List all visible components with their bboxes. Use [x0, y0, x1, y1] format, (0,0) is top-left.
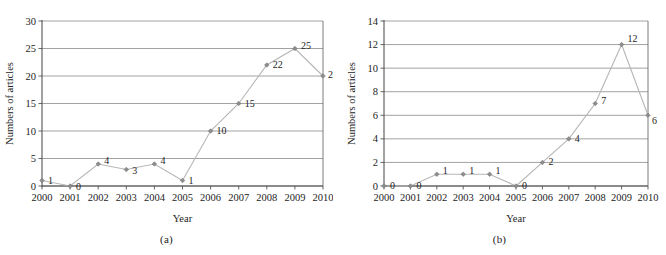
data-point-label: 12	[628, 33, 638, 44]
chart-panel-a: 0510152025302000200120022003200420052006…	[0, 0, 333, 255]
x-tick-label-2004: 2004	[479, 192, 501, 203]
data-point-label: 15	[245, 98, 255, 109]
y-tick-label-20: 20	[26, 71, 37, 82]
x-tick-label-2007: 2007	[228, 192, 249, 203]
y-tick-label-10: 10	[26, 126, 37, 137]
y-tick-label-0: 0	[373, 181, 378, 192]
chart-panel-b: 0246810121420002001200220032004200520062…	[333, 0, 666, 255]
x-tick-label-2006: 2006	[200, 192, 221, 203]
y-axis-title: Numbers of articles	[346, 62, 357, 145]
x-tick-label-2000: 2000	[32, 192, 53, 203]
x-axis-title: Year	[173, 213, 193, 224]
data-point-label: 4	[104, 155, 109, 166]
data-point-marker	[40, 178, 45, 183]
y-tick-label-8: 8	[373, 86, 378, 97]
data-point-label: 0	[522, 180, 527, 191]
y-tick-label-6: 6	[373, 110, 378, 121]
data-point-marker	[487, 172, 492, 177]
x-tick-label-2008: 2008	[256, 192, 277, 203]
y-tick-label-14: 14	[368, 16, 379, 27]
line-chart-b: 0246810121420002001200220032004200520062…	[333, 0, 666, 232]
data-point-label: 0	[416, 180, 421, 191]
x-tick-label-2002: 2002	[88, 192, 109, 203]
y-tick-label-30: 30	[26, 16, 37, 27]
x-tick-label-2006: 2006	[532, 192, 553, 203]
data-point-marker	[619, 42, 624, 47]
y-tick-label-2: 2	[373, 157, 378, 168]
x-tick-label-2010: 2010	[638, 192, 659, 203]
data-point-marker	[382, 184, 387, 189]
y-tick-label-0: 0	[31, 181, 36, 192]
x-tick-label-2003: 2003	[116, 192, 137, 203]
x-tick-label-2005: 2005	[506, 192, 527, 203]
panel-caption-b: (b)	[333, 233, 666, 245]
x-tick-label-2010: 2010	[313, 192, 334, 203]
line-chart-a: 0510152025302000200120022003200420052006…	[0, 0, 333, 232]
x-tick-label-2000: 2000	[374, 192, 395, 203]
data-point-marker	[124, 167, 129, 172]
data-point-label: 1	[469, 165, 474, 176]
y-tick-label-10: 10	[368, 63, 379, 74]
figure-container: 0510152025302000200120022003200420052006…	[0, 0, 666, 255]
data-point-label: 1	[496, 165, 501, 176]
data-point-label: 0	[390, 180, 395, 191]
x-tick-label-2004: 2004	[144, 192, 166, 203]
data-point-marker	[461, 172, 466, 177]
x-tick-label-2008: 2008	[585, 192, 606, 203]
data-point-marker	[435, 172, 440, 177]
data-point-label: 22	[273, 59, 283, 70]
data-point-label: 0	[76, 181, 81, 192]
y-tick-label-15: 15	[26, 98, 37, 109]
x-tick-label-2003: 2003	[453, 192, 474, 203]
data-point-label: 4	[575, 133, 580, 144]
data-point-label: 6	[652, 115, 657, 126]
data-point-label: 25	[301, 40, 311, 51]
y-tick-label-25: 25	[26, 43, 37, 54]
data-point-label: 2	[548, 156, 553, 167]
x-tick-label-2007: 2007	[558, 192, 579, 203]
y-axis-title: Numbers of articles	[4, 62, 15, 145]
y-tick-label-12: 12	[368, 39, 379, 50]
data-point-label: 1	[443, 165, 448, 176]
data-point-marker	[646, 113, 651, 118]
data-point-label: 7	[601, 95, 606, 106]
x-tick-label-2001: 2001	[60, 192, 81, 203]
data-point-label: 10	[217, 125, 227, 136]
data-point-marker	[152, 162, 157, 167]
x-tick-label-2005: 2005	[172, 192, 193, 203]
data-point-label: 1	[48, 175, 53, 186]
y-tick-label-5: 5	[31, 153, 36, 164]
x-tick-label-2001: 2001	[400, 192, 421, 203]
data-point-label: 1	[189, 175, 194, 186]
panel-caption-a: (a)	[0, 233, 333, 245]
x-tick-label-2009: 2009	[611, 192, 632, 203]
x-axis-title: Year	[506, 213, 526, 224]
data-point-label: 4	[160, 155, 165, 166]
data-point-marker	[180, 178, 185, 183]
data-point-marker	[408, 184, 413, 189]
x-tick-label-2002: 2002	[426, 192, 447, 203]
x-tick-label-2009: 2009	[284, 192, 305, 203]
data-point-label: 3	[132, 165, 137, 176]
y-tick-label-4: 4	[373, 133, 379, 144]
